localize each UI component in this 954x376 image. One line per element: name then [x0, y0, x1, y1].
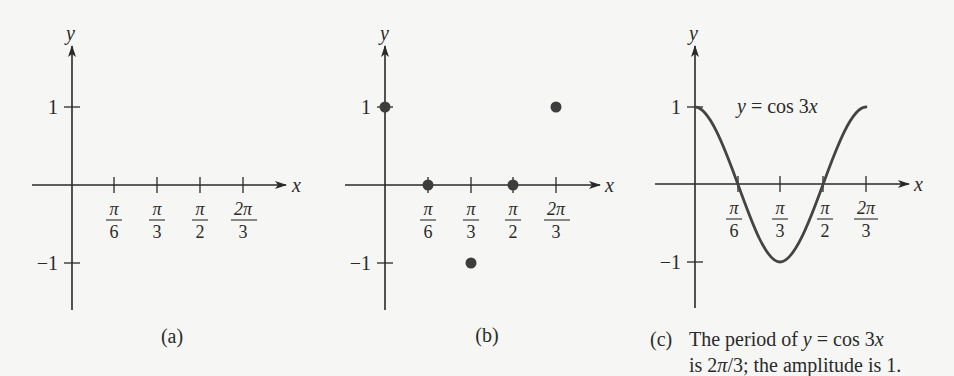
svg-text:3: 3: [862, 221, 871, 241]
x-axis-label: x: [604, 174, 614, 196]
x-tick-label-pi2: π 2: [817, 198, 833, 241]
panel-a: x y 1 −1 π 6 π 3 π 2 2π 3: [32, 22, 301, 348]
data-point-0: [380, 102, 391, 113]
caption-c: (c) The period of y = cos 3x is 2π/3; th…: [650, 328, 901, 376]
x-tick-label-2pi3: 2π 3: [231, 199, 257, 242]
svg-text:6: 6: [424, 222, 433, 242]
curve-label: y = cos 3x: [735, 95, 818, 118]
x-tick-label-pi6: π 6: [726, 198, 742, 241]
svg-text:2: 2: [509, 222, 518, 242]
y-tick-label-neg1: −1: [37, 252, 58, 274]
x-tick-label-2pi3: 2π 3: [854, 198, 878, 241]
y-axis-label: y: [378, 22, 389, 45]
caption-line-1: The period of y = cos 3x: [689, 328, 884, 351]
data-point-pi6: [423, 180, 434, 191]
y-tick-label-neg1: −1: [350, 252, 371, 274]
x-tick-label-pi3: π 3: [463, 199, 479, 242]
svg-text:π: π: [729, 198, 739, 218]
svg-text:π: π: [508, 199, 518, 219]
y-tick-label-neg1: −1: [660, 251, 681, 273]
svg-text:2π: 2π: [857, 198, 876, 218]
panel-label-a: (a): [161, 325, 183, 348]
svg-text:3: 3: [239, 222, 248, 242]
y-tick-label-1: 1: [48, 96, 58, 118]
svg-text:π: π: [820, 198, 830, 218]
svg-text:π: π: [466, 199, 476, 219]
y-tick-label-1: 1: [361, 96, 371, 118]
x-tick-label-pi6: π 6: [420, 199, 436, 242]
svg-text:2π: 2π: [234, 199, 253, 219]
data-point-2pi3: [551, 102, 562, 113]
svg-text:2π: 2π: [547, 199, 566, 219]
x-tick-label-pi6: π 6: [106, 199, 122, 242]
data-point-pi2: [508, 180, 519, 191]
svg-text:π: π: [195, 199, 205, 219]
panel-b: x y 1 −1 π 6 π 3 π 2 2π 3: [345, 22, 614, 347]
svg-text:3: 3: [153, 222, 162, 242]
svg-text:3: 3: [552, 222, 561, 242]
y-axis-label: y: [687, 22, 698, 45]
svg-text:π: π: [423, 199, 433, 219]
svg-text:2: 2: [196, 222, 205, 242]
svg-text:6: 6: [730, 221, 739, 241]
x-axis-label: x: [913, 173, 923, 195]
panel-label-b: (b): [475, 324, 498, 347]
x-tick-label-pi2: π 2: [505, 199, 521, 242]
svg-text:π: π: [109, 199, 119, 219]
svg-text:3: 3: [467, 222, 476, 242]
x-axis-label: x: [291, 174, 301, 196]
x-tick-label-pi3: π 3: [149, 199, 165, 242]
panel-label-c: (c): [650, 328, 672, 351]
x-tick-label-pi3: π 3: [772, 198, 788, 241]
svg-text:6: 6: [110, 222, 119, 242]
svg-text:π: π: [775, 198, 785, 218]
y-tick-label-1: 1: [671, 96, 681, 118]
data-point-pi3: [466, 258, 477, 269]
svg-text:π: π: [152, 199, 162, 219]
x-tick-label-2pi3: 2π 3: [544, 199, 570, 242]
caption-line-2: is 2π/3; the amplitude is 1.: [689, 354, 901, 376]
svg-text:3: 3: [776, 221, 785, 241]
x-tick-label-pi2: π 2: [192, 199, 208, 242]
y-axis-label: y: [64, 22, 75, 45]
figure-canvas: x y 1 −1 π 6 π 3 π 2 2π 3: [0, 0, 954, 376]
panel-c: x y 1 −1 π 6 π 3 π 2 2π 3: [650, 22, 923, 376]
svg-text:2: 2: [821, 221, 830, 241]
